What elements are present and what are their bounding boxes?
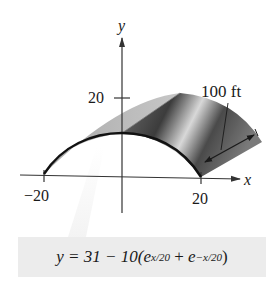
x-axis (20, 175, 240, 179)
formula-close: ) (222, 247, 228, 267)
formula-lhs: y = 31 − 10( (56, 247, 143, 267)
formula-e1: e (143, 247, 151, 267)
formula-exp2: −x/20 (196, 251, 222, 263)
formula-e2: e (188, 247, 196, 267)
formula-exp1: x/20 (151, 251, 170, 263)
formula-plus: + (170, 247, 188, 267)
catenary-equation: y = 31 − 10( ex/20 + e−x/20 ) (18, 237, 266, 277)
x-tick-label-neg20: −20 (24, 188, 49, 204)
y-tick-label-20: 20 (88, 90, 104, 106)
formula-box: y = 31 − 10( ex/20 + e−x/20 ) (18, 237, 266, 277)
length-label: 100 ft (201, 83, 241, 100)
x-axis-label: x (244, 172, 251, 188)
x-tick-label-20: 20 (192, 191, 208, 207)
y-axis-label: y (118, 18, 125, 34)
light-beam (68, 148, 104, 237)
